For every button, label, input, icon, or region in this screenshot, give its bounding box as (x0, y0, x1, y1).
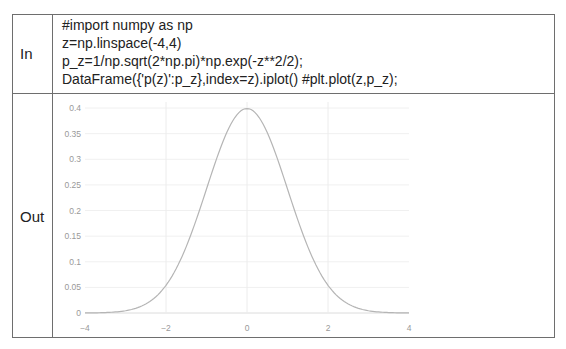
code-line: DataFrame({'p(z)':p_z},index=z).iplot() … (62, 70, 398, 88)
line-chart: 00.050.10.150.20.250.30.350.4 −4−2024 (53, 94, 553, 338)
y-tick-label: 0.3 (69, 154, 81, 164)
y-tick-label: 0.35 (64, 129, 81, 139)
in-label: In (20, 45, 33, 62)
y-tick-label: 0 (76, 308, 81, 318)
code-line: p_z=1/np.sqrt(2*np.pi)*np.exp(-z**2/2); (62, 52, 398, 70)
y-tick-label: 0.1 (69, 257, 81, 267)
code-line: #import numpy as np (62, 16, 398, 34)
y-axis-ticks: 00.050.10.150.20.250.30.350.4 (64, 103, 81, 318)
x-tick-label: 2 (326, 323, 331, 333)
x-tick-label: −2 (161, 323, 171, 333)
x-tick-label: 4 (407, 323, 412, 333)
x-axis-ticks: −4−2024 (80, 323, 411, 333)
y-tick-label: 0.4 (69, 103, 81, 113)
x-tick-label: −4 (80, 323, 90, 333)
chart-grid (85, 102, 409, 313)
y-tick-label: 0.2 (69, 206, 81, 216)
y-tick-label: 0.05 (64, 282, 81, 292)
y-tick-label: 0.25 (64, 180, 81, 190)
code-line: z=np.linspace(-4,4) (62, 34, 398, 52)
x-tick-label: 0 (245, 323, 250, 333)
code-block: #import numpy as np z=np.linspace(-4,4) … (62, 16, 398, 88)
y-tick-label: 0.15 (64, 231, 81, 241)
out-label: Out (20, 208, 44, 225)
